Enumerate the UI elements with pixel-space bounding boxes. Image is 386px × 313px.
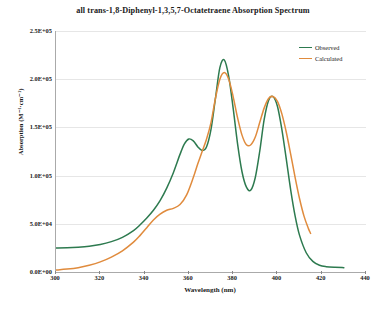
- x-tick-mark-0: [55, 271, 56, 274]
- y-tick-label-4: 2.0E+05: [30, 75, 52, 82]
- chart-legend: ObservedCalculated: [299, 42, 371, 64]
- legend-label-calculated: Calculated: [315, 55, 342, 62]
- x-tick-label-2: 340: [130, 274, 158, 281]
- y-axis-title: Absorption (M⁻¹·cm⁻¹): [17, 57, 25, 187]
- x-tick-mark-1: [99, 271, 100, 274]
- series-line-observed: [56, 60, 344, 268]
- x-axis-tick-labels: 300320340360380400420440: [55, 274, 365, 286]
- x-tick-label-0: 300: [41, 274, 69, 281]
- y-tick-label-2: 1.0E+05: [30, 172, 52, 179]
- x-tick-label-1: 320: [85, 274, 113, 281]
- x-tick-label-4: 380: [218, 274, 246, 281]
- chart-title: all trans-1,8-Diphenyl-1,3,5,7-Octatetra…: [0, 6, 386, 15]
- x-tick-mark-5: [276, 271, 277, 274]
- y-axis-tick-labels: 0.0E+005.0E+041.0E+051.5E+052.0E+052.5E+…: [0, 31, 52, 272]
- x-tick-mark-2: [144, 271, 145, 274]
- absorption-spectrum-chart: all trans-1,8-Diphenyl-1,3,5,7-Octatetra…: [0, 0, 386, 313]
- x-tick-label-6: 420: [307, 274, 335, 281]
- legend-swatch-calculated: [299, 58, 312, 59]
- y-tick-label-5: 2.5E+05: [30, 27, 52, 34]
- legend-item-observed[interactable]: Observed: [299, 42, 371, 53]
- series-line-calculated: [56, 72, 311, 270]
- x-tick-mark-3: [188, 271, 189, 274]
- legend-label-observed: Observed: [315, 44, 340, 51]
- y-tick-label-3: 1.5E+05: [30, 123, 52, 130]
- plot-area: ObservedCalculated: [55, 31, 366, 273]
- x-tick-mark-4: [232, 271, 233, 274]
- series-curves: [56, 31, 366, 272]
- x-tick-label-7: 440: [351, 274, 379, 281]
- x-tick-mark-6: [321, 271, 322, 274]
- legend-item-calculated[interactable]: Calculated: [299, 53, 371, 64]
- x-tick-label-3: 360: [174, 274, 202, 281]
- x-axis-title: Wavelength (nm): [55, 286, 365, 294]
- legend-swatch-observed: [299, 47, 312, 48]
- x-tick-label-5: 400: [262, 274, 290, 281]
- x-tick-mark-7: [365, 271, 366, 274]
- y-tick-label-1: 5.0E+04: [30, 220, 52, 227]
